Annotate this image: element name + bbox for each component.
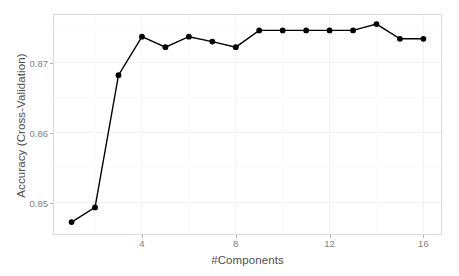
x-tick-label: 12 [324, 238, 335, 249]
plot-panel [53, 14, 442, 235]
x-tick-label: 8 [233, 238, 238, 249]
data-point [327, 27, 333, 33]
data-point [163, 44, 169, 50]
data-point [139, 34, 145, 40]
data-point [69, 219, 75, 225]
x-axis-title: #Components [53, 254, 442, 266]
y-tick-mark [50, 203, 53, 204]
x-tick-mark [142, 235, 143, 238]
y-tick-mark [50, 63, 53, 64]
data-point [350, 27, 356, 33]
chart-container: Accuracy (Cross-Validation) #Components … [0, 0, 459, 276]
x-tick-label: 4 [139, 238, 144, 249]
data-line [72, 24, 424, 222]
data-point [92, 205, 98, 211]
data-point [256, 27, 262, 33]
data-points-group [69, 21, 427, 225]
data-point [303, 27, 309, 33]
x-tick-label: 16 [418, 238, 429, 249]
data-point [209, 39, 215, 45]
plot-area [54, 15, 441, 234]
data-point [280, 27, 286, 33]
data-point [233, 44, 239, 50]
data-point [374, 21, 380, 27]
x-tick-mark [236, 235, 237, 238]
x-tick-mark [330, 235, 331, 238]
y-tick-mark [50, 133, 53, 134]
y-tick-label: 0.85 [30, 197, 49, 208]
x-tick-mark [423, 235, 424, 238]
data-point [421, 36, 427, 42]
data-point [116, 72, 122, 78]
gridlines-group [54, 15, 441, 234]
y-tick-label: 0.87 [30, 57, 49, 68]
y-tick-label: 0.86 [30, 127, 49, 138]
data-point [397, 36, 403, 42]
data-point [186, 34, 192, 40]
